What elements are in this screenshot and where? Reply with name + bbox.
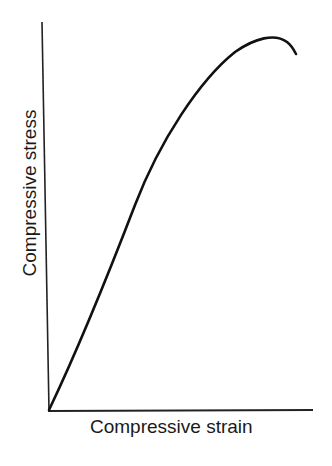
y-axis-label: Compressive stress — [19, 103, 41, 283]
stress-strain-diagram — [0, 0, 332, 466]
x-axis — [48, 410, 313, 411]
x-axis-label: Compressive strain — [90, 416, 253, 438]
stress-strain-curve — [49, 37, 296, 410]
y-axis — [42, 22, 49, 411]
